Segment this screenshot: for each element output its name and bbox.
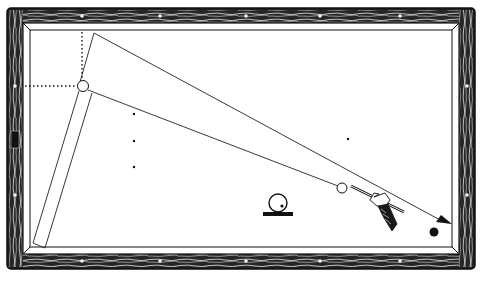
diamond-marker [158,259,162,263]
diamond-marker [465,193,469,197]
diamond-marker [13,84,17,88]
spin-ball-outline [269,194,287,212]
diamond-marker [318,14,322,18]
diamond-marker [158,14,162,18]
object-ball [78,81,89,92]
diamond-marker [398,259,402,263]
rail-nameplate [11,131,19,148]
spot [347,138,349,140]
spot [133,166,135,168]
diagram-canvas [0,0,483,282]
diamond-marker [80,259,84,263]
diamond-marker [465,84,469,88]
top-rail-wood [9,10,473,23]
bottom-rail-wood [9,254,473,267]
spin-base-bar [263,212,293,216]
cue-ball [337,183,347,193]
diamond-marker [13,193,17,197]
diamond-marker [80,14,84,18]
right-rail-wood [459,10,473,267]
diamond-marker [398,14,402,18]
diamond-marker [244,259,248,263]
spot [133,140,135,142]
spin-contact-dot [280,204,283,207]
diamond-marker [244,14,248,18]
billiards-diagram [0,0,483,282]
black-ball [430,228,439,237]
spot [133,113,135,115]
diamond-marker [318,259,322,263]
